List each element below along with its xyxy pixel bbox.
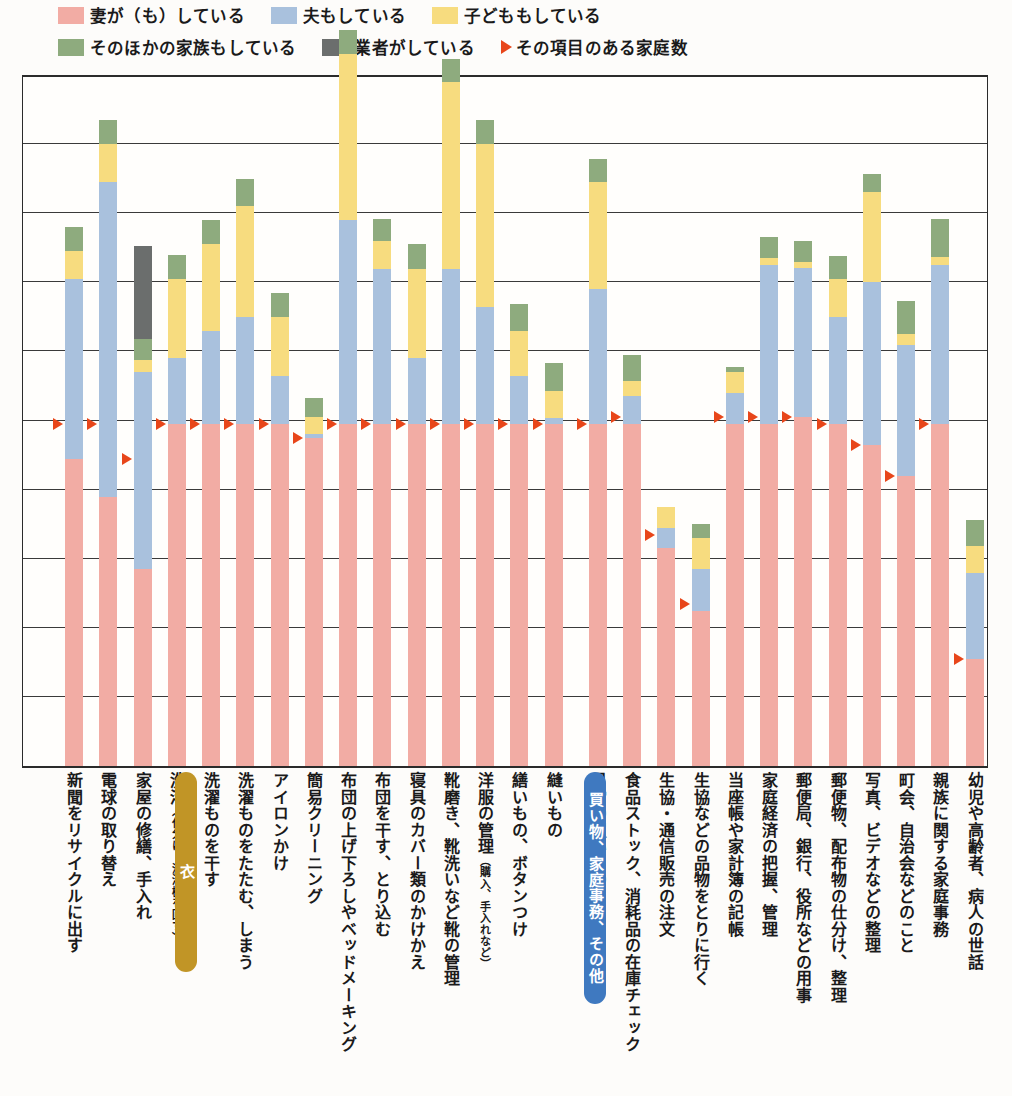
bar-segment-other	[897, 301, 915, 334]
bar-segment-husband	[829, 317, 847, 424]
bar-23[interactable]	[863, 174, 881, 766]
bar-25[interactable]	[931, 219, 949, 766]
bar-12[interactable]	[476, 120, 494, 766]
bar-22[interactable]	[829, 256, 847, 766]
bar-18[interactable]	[692, 524, 710, 766]
bar-segment-child	[897, 334, 915, 344]
bar-segment-child	[760, 258, 778, 265]
bar-7[interactable]	[305, 398, 323, 766]
bar-segment-wife	[692, 611, 710, 766]
bar-segment-child	[236, 206, 254, 317]
category-label-14: 縫いもの	[545, 772, 561, 838]
bar-segment-child	[373, 241, 391, 269]
bar-segment-husband	[99, 182, 117, 496]
bar-segment-wife	[589, 424, 607, 766]
legend-item-husband: 夫もしている	[271, 3, 406, 27]
category-label-22: 郵便物、配布物の仕分け、整理	[829, 772, 845, 1003]
household-count-marker	[680, 598, 690, 610]
household-count-marker	[498, 418, 508, 430]
bar-8[interactable]	[339, 30, 357, 766]
bar-10[interactable]	[408, 244, 426, 766]
bar-0[interactable]	[65, 227, 83, 766]
chart-plot-area	[22, 75, 988, 768]
bar-segment-other	[408, 244, 426, 268]
bar-segment-wife	[863, 445, 881, 766]
bar-15[interactable]	[589, 159, 607, 766]
household-count-marker	[190, 418, 200, 430]
category-label-16: 食品ストック、消耗品の在庫チェック	[623, 772, 639, 1053]
legend-label-contractor: 業者がしている	[354, 35, 474, 59]
bar-2[interactable]	[134, 246, 152, 766]
bar-19[interactable]	[726, 367, 744, 766]
bar-16[interactable]	[623, 355, 641, 766]
bar-segment-husband	[760, 265, 778, 424]
bar-14[interactable]	[545, 363, 563, 766]
bar-segment-wife	[168, 424, 186, 766]
bar-20[interactable]	[760, 237, 778, 766]
category-label-8: 布団の上げ下ろしやベッドメーキング	[339, 772, 355, 1053]
bar-segment-other	[863, 174, 881, 193]
category-label-26: 幼児や高齢者、病人の世話	[966, 772, 982, 970]
bar-segment-contractor	[134, 246, 152, 339]
category-label-13: 繕いもの、ボタンつけ	[510, 772, 526, 937]
category-label-12: 洋服の管理（購入、手入れなど）	[476, 772, 492, 970]
legend-swatch-wife	[58, 7, 84, 24]
bar-segment-other	[134, 339, 152, 360]
bar-segment-husband	[271, 376, 289, 424]
household-count-marker	[327, 418, 337, 430]
gridline	[23, 143, 987, 144]
bar-13[interactable]	[510, 304, 528, 766]
bar-segment-wife	[931, 424, 949, 766]
section-banner-1: 買い物、家庭事務、その他	[584, 772, 606, 1004]
bar-segment-child	[692, 538, 710, 569]
bar-segment-child	[442, 82, 460, 269]
bar-segment-other	[545, 363, 563, 391]
bar-segment-wife	[236, 424, 254, 766]
bar-segment-wife	[476, 424, 494, 766]
category-label-11: 靴磨き、靴洗いなど靴の管理	[442, 772, 458, 987]
category-label-24: 町会、自治会などのこと	[897, 772, 913, 954]
household-count-marker	[748, 411, 758, 423]
category-label-18: 生協などの品物をとりに行く	[692, 772, 708, 987]
bar-6[interactable]	[271, 293, 289, 766]
household-count-marker	[361, 418, 371, 430]
bar-4[interactable]	[202, 220, 220, 766]
category-label-20: 家庭経済の把握、管理	[760, 772, 776, 937]
bar-21[interactable]	[794, 241, 812, 766]
legend-label-child: 子どももしている	[464, 3, 602, 27]
bar-segment-other	[99, 120, 117, 144]
category-label-25: 親族に関する家庭事務	[931, 772, 947, 937]
bar-segment-other	[760, 237, 778, 258]
legend-row-bottom: そのほかの家族もしている 業者がしている その項目のある家庭数	[58, 35, 714, 59]
legend-label-husband: 夫もしている	[303, 3, 406, 27]
bar-segment-wife	[65, 459, 83, 766]
category-label-4: 洗濯ものを干す	[202, 772, 218, 888]
household-count-marker	[714, 411, 724, 423]
bar-11[interactable]	[442, 59, 460, 766]
bar-segment-wife	[829, 424, 847, 766]
bar-9[interactable]	[373, 219, 391, 766]
legend-label-marker: その項目のある家庭数	[516, 35, 688, 59]
bar-3[interactable]	[168, 255, 186, 766]
household-count-marker	[817, 418, 827, 430]
bar-segment-child	[829, 279, 847, 317]
bar-segment-husband	[510, 376, 528, 424]
bar-segment-husband	[897, 345, 915, 476]
bar-1[interactable]	[99, 120, 117, 766]
bar-segment-child	[99, 144, 117, 182]
bar-segment-husband	[442, 269, 460, 424]
bar-segment-wife	[134, 569, 152, 766]
bar-segment-wife	[305, 438, 323, 766]
bar-segment-child	[623, 381, 641, 396]
bar-segment-wife	[339, 424, 357, 766]
category-label-6: アイロンかけ	[271, 772, 287, 871]
household-count-marker	[919, 418, 929, 430]
bar-24[interactable]	[897, 301, 915, 766]
bar-26[interactable]	[966, 520, 984, 766]
category-label-17: 生協・通信販売の注文	[657, 772, 673, 937]
bar-segment-other	[794, 241, 812, 262]
bar-5[interactable]	[236, 179, 254, 766]
bar-segment-wife	[271, 424, 289, 766]
bar-segment-child	[726, 372, 744, 393]
bar-17[interactable]	[657, 507, 675, 766]
